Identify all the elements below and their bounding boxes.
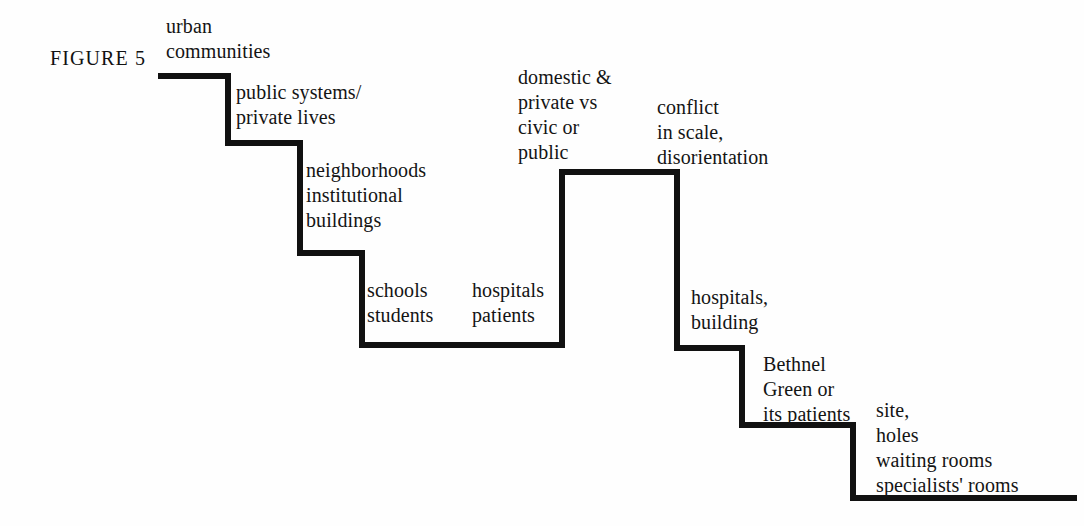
label-hospitals-building: hospitals, building xyxy=(691,285,768,335)
label-urban-communities: urban communities xyxy=(166,14,270,64)
label-neighborhoods-institutional-buildings: neighborhoods institutional buildings xyxy=(306,158,426,233)
label-site-holes-waiting-rooms-specialists-rooms: site, holes waiting rooms specialists' r… xyxy=(876,398,1019,498)
label-hospitals-patients: hospitals patients xyxy=(472,278,544,328)
label-schools-students: schools students xyxy=(367,278,433,328)
figure-page: FIGURE 5 urban communities public system… xyxy=(0,0,1084,526)
label-domestic-private-vs-civic-public: domestic & private vs civic or public xyxy=(518,65,612,165)
label-conflict-in-scale-disorientation: conflict in scale, disorientation xyxy=(657,95,768,170)
label-public-systems-private-lives: public systems/ private lives xyxy=(236,80,361,130)
label-bethnel-green-or-its-patients: Bethnel Green or its patients xyxy=(763,352,850,427)
